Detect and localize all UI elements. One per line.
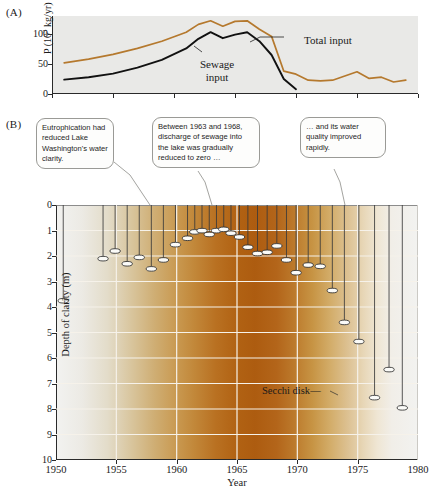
sewage-input-label-line1: Sewage (200, 58, 234, 70)
secchi-disk-marker (384, 367, 394, 372)
secchi-disk-marker (281, 258, 291, 263)
panel-b-x-tick-1960: 1960 (166, 465, 187, 476)
panel-b-y-tickmark (52, 460, 56, 461)
panel-b-x-tickmark (358, 460, 359, 464)
secchi-disk-marker (226, 231, 236, 236)
panel-b-x-tick-1955: 1955 (106, 465, 127, 476)
total-input-label: Total input (304, 34, 352, 47)
secchi-disk-marker (354, 339, 364, 344)
secchi-disk-marker (315, 264, 325, 269)
panel-a-x-tickmark (357, 94, 358, 98)
panel-b-y-tickmark (52, 333, 56, 334)
sewage-input-label-line2: input (206, 71, 229, 83)
secchi-disk-marker (262, 250, 272, 255)
callout-sewage-reduction: Between 1963 and 1968, discharge of sewa… (152, 117, 260, 168)
panel-a-chart: P (103 kg/yr) Total input Sewage input 0… (52, 16, 418, 94)
secchi-disk-marker (98, 256, 108, 261)
panel-b-y-tickmark (52, 358, 56, 359)
sewage-input-label: Sewage input (200, 58, 234, 83)
panel-a-y-tickmark (48, 34, 52, 35)
panel-a-x-tickmark (52, 94, 53, 98)
panel-b-x-tick-1950: 1950 (46, 465, 67, 476)
panel-b-y-tickmark (52, 256, 56, 257)
panel-b-x-tick-1980: 1980 (408, 465, 429, 476)
panel-b-x-tick-1965: 1965 (227, 465, 248, 476)
secchi-disk-marker (339, 320, 349, 325)
callout-water-quality: … and its water quality improved rapidly… (300, 117, 386, 158)
secchi-disk-marker (272, 244, 282, 249)
secchi-disk-marker (170, 242, 180, 247)
panel-a-y-tick-50: 50 (38, 59, 48, 69)
panel-a-x-tickmark (113, 94, 114, 98)
panel-b-letter: (B) (6, 118, 21, 130)
secchi-disk-annotation: Secchi disk— (262, 385, 321, 396)
panel-a-y-tickmark (48, 64, 52, 65)
secchi-disk-marker (234, 235, 244, 240)
secchi-disk-leader-line (330, 391, 338, 395)
secchi-disk-marker (327, 288, 337, 293)
callout-eutrophication: Eutrophication had reduced Lake Washingt… (36, 118, 114, 169)
panel-a-x-tickmark (235, 94, 236, 98)
panel-b-y-axis-label: Depth of clarity (m) (60, 187, 71, 442)
secchi-disk-marker (122, 261, 132, 266)
panel-b-series-svg (56, 205, 418, 460)
secchi-disk-marker (158, 258, 168, 263)
secchi-disk-marker (134, 255, 144, 260)
secchi-disk-marker (291, 270, 301, 275)
sewage-input-line (64, 32, 296, 89)
secchi-disk-marker (303, 263, 313, 268)
panel-b-x-tickmark (237, 460, 238, 464)
secchi-disk-marker (110, 249, 120, 254)
panel-a-letter: (A) (6, 6, 22, 18)
panel-b-x-tickmark (116, 460, 117, 464)
panel-b-y-tickmark (52, 409, 56, 410)
sewage-input-leader-line (194, 46, 202, 52)
panel-b-x-axis-label: Year (56, 477, 418, 488)
panel-b-x-tick-1970: 1970 (287, 465, 308, 476)
panel-a-x-tickmark (296, 94, 297, 98)
panel-b-y-tickmark (52, 231, 56, 232)
secchi-disk-marker (252, 251, 262, 256)
panel-b-x-tickmark (177, 460, 178, 464)
panel-b-y-tickmark (52, 435, 56, 436)
panel-b-chart: Depth of clarity (m) Year Secchi disk— 0… (56, 205, 418, 460)
panel-b-y-tickmark (52, 282, 56, 283)
panel-b-x-tickmark (297, 460, 298, 464)
secchi-disk-marker (243, 245, 253, 250)
panel-b-x-tick-1975: 1975 (347, 465, 368, 476)
panel-b-y-tickmark (52, 205, 56, 206)
panel-b-y-tickmark (52, 307, 56, 308)
secchi-disk-marker (369, 395, 379, 400)
secchi-disk-marker (397, 406, 407, 411)
panel-a-x-tickmark (174, 94, 175, 98)
panel-a-series-svg (52, 16, 418, 94)
panel-a-x-tickmark (418, 94, 419, 98)
panel-a-y-tick-100: 100 (33, 29, 48, 39)
secchi-disk-marker (182, 236, 192, 241)
panel-b-y-tickmark (52, 384, 56, 385)
secchi-disk-marker (146, 267, 156, 272)
